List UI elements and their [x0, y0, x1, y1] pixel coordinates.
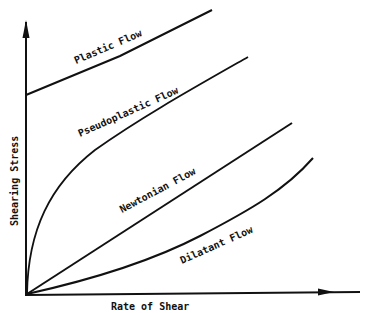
x-axis-label: Rate of Shear: [111, 301, 189, 312]
newtonian-flow-label: Newtonian Flow: [118, 165, 198, 215]
dilatant-flow-label: Dilatant Flow: [178, 224, 255, 266]
flow-curves-diagram: Plastic Flow Pseudoplastic Flow Newtonia…: [0, 0, 366, 313]
y-axis-arrow-icon: [23, 20, 30, 38]
x-axis-arrow-icon: [318, 289, 334, 296]
pseudoplastic-flow-curve: [27, 57, 248, 294]
y-axis-label: Shearing Stress: [9, 136, 20, 226]
plastic-flow-curve: [26, 10, 212, 95]
pseudoplastic-flow-label: Pseudoplastic Flow: [76, 84, 180, 139]
x-axis: [26, 292, 360, 295]
newtonian-flow-curve: [27, 123, 292, 294]
